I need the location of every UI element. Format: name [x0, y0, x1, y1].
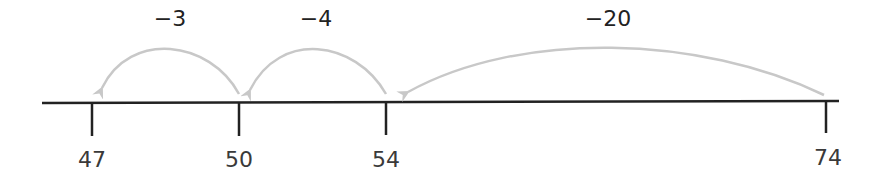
jump-arc-minus-4 — [250, 49, 386, 94]
jump-label-minus-20: −20 — [585, 6, 631, 31]
jump-label-minus-4: −4 — [300, 6, 332, 31]
tick-label-50: 50 — [225, 147, 253, 172]
number-line-diagram — [0, 0, 876, 182]
tick-label-54: 54 — [372, 147, 400, 172]
tick-label-74: 74 — [814, 145, 842, 170]
number-line-axis — [42, 101, 839, 103]
jump-label-minus-3: −3 — [154, 6, 186, 31]
tick-label-47: 47 — [78, 147, 106, 172]
jump-arc-minus-3 — [102, 49, 239, 94]
jump-arc-minus-20 — [408, 48, 824, 95]
